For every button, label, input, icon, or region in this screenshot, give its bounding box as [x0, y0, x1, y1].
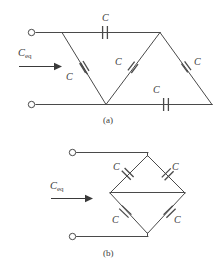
terminal-a-bottom: [28, 101, 34, 107]
label-part-b: (b): [103, 248, 114, 258]
label-ceq-b-sub: eq: [57, 185, 64, 193]
label-ceq-b-main: C: [50, 180, 57, 191]
capacitor-network-figure: C C C C C Ceq (a) C C C C Ceq (b): [0, 0, 217, 269]
label-capacitor-a-right: C: [194, 57, 201, 67]
capacitor-a-bottom: [36, 98, 212, 111]
capacitor-a-top: [36, 26, 160, 39]
label-capacitor-b-topleft: C: [113, 162, 120, 172]
circuit-a: [19, 26, 212, 111]
label-ceq-b: Ceq: [50, 181, 64, 193]
label-capacitor-b-bottomleft: C: [112, 215, 119, 225]
ceq-arrow-a: [19, 63, 62, 70]
label-ceq-a-sub: eq: [25, 52, 32, 60]
capacitor-b-topleft-plates: [122, 168, 134, 180]
label-capacitor-a-top: C: [102, 13, 109, 23]
label-capacitor-a-left: C: [66, 72, 73, 82]
capacitor-a-left: [81, 63, 88, 74]
label-part-a: (a): [103, 115, 113, 125]
label-capacitor-a-bottom: C: [153, 85, 160, 95]
capacitor-a-right-plates: [181, 61, 191, 72]
label-capacitor-b-bottomright: C: [174, 215, 181, 225]
label-ceq-a: Ceq: [18, 48, 32, 60]
label-ceq-a-main: C: [18, 47, 25, 58]
circuit-diagram-svg: [0, 0, 217, 269]
ceq-arrow-b: [51, 195, 93, 202]
label-capacitor-b-topright: C: [172, 162, 179, 172]
capacitor-b-bottomleft-plates: [119, 206, 131, 218]
label-capacitor-a-mid: C: [115, 57, 122, 67]
wire-a-mid-diagonal: [106, 33, 160, 105]
wire-a-right-diagonal: [160, 33, 212, 105]
wire-b-edge-topright: [148, 156, 186, 194]
terminal-a-top: [28, 29, 34, 35]
terminal-b-bottom: [69, 233, 75, 239]
terminal-b-top: [69, 149, 75, 155]
